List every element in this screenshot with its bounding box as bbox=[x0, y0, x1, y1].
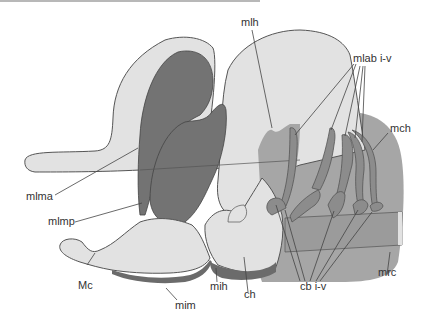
label-cb: cb i-v bbox=[300, 280, 327, 292]
label-mlma: mlma bbox=[26, 190, 54, 202]
label-mch: mch bbox=[390, 122, 411, 134]
label-mlmp: mlmp bbox=[48, 215, 75, 227]
label-mlab: mlab i-v bbox=[353, 52, 392, 64]
mrc-band-light bbox=[398, 212, 402, 245]
mrc-band bbox=[285, 212, 402, 252]
label-mih: mih bbox=[210, 280, 228, 292]
label-mlh: mlh bbox=[241, 16, 259, 28]
label-mrc: mrc bbox=[378, 266, 397, 278]
label-ch: ch bbox=[244, 288, 256, 300]
meckels-cartilage bbox=[60, 219, 210, 274]
label-mc: Mc bbox=[78, 279, 93, 291]
anatomy-diagram: mlh mlab i-v mch mlma mlmp Mc mim mih ch… bbox=[0, 0, 432, 325]
label-mim: mim bbox=[175, 299, 196, 311]
